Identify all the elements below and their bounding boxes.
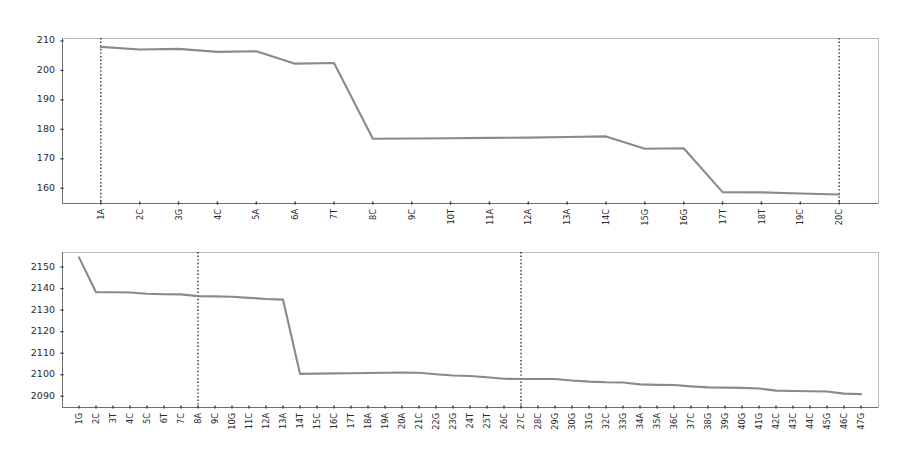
x-tick-label: 2C — [135, 209, 145, 220]
y-tick-label: 190 — [37, 93, 55, 104]
plot-frame — [62, 38, 878, 203]
y-tick-label: 2110 — [31, 347, 55, 358]
x-tick-label: 17T — [346, 412, 356, 428]
x-tick-label: 19C — [795, 209, 805, 225]
x-tick-label: 16G — [679, 209, 689, 226]
x-tick-label: 27C — [516, 413, 526, 429]
x-tick-label: 5A — [251, 209, 261, 220]
x-tick-label: 24T — [465, 412, 475, 428]
series-line[interactable] — [79, 257, 861, 394]
y-tick-label: 2100 — [31, 368, 55, 379]
x-tick-label: 37C — [686, 413, 696, 429]
x-tick-label: 45G — [822, 413, 832, 430]
y-tick-label: 2090 — [31, 390, 55, 401]
x-tick-label: 23G — [448, 413, 458, 430]
x-tick-label: 30G — [567, 413, 577, 430]
x-tick-label: 10G — [227, 413, 237, 430]
x-tick-label: 29G — [550, 413, 560, 430]
x-tick-label: 12A — [523, 209, 533, 225]
y-tick-label: 2150 — [31, 261, 55, 272]
y-axis-ticks: 2090210021102120213021402150 — [31, 261, 64, 401]
x-tick-label: 21C — [414, 413, 424, 429]
x-tick-label: 4C — [125, 413, 135, 424]
y-tick-label: 180 — [37, 123, 55, 134]
x-tick-label: 7C — [176, 413, 186, 424]
x-tick-label: 35A — [652, 413, 662, 429]
x-tick-label: 9C — [407, 209, 417, 220]
x-tick-label: 17T — [718, 208, 728, 224]
x-tick-label: 9C — [210, 413, 220, 424]
x-tick-label: 20C — [834, 209, 844, 225]
x-tick-label: 15C — [312, 413, 322, 429]
x-tick-label: 6T — [159, 412, 169, 423]
x-tick-label: 13A — [562, 209, 572, 225]
y-tick-label: 210 — [37, 34, 55, 45]
x-axis-ticks: 1A2C3G4C5A6A7T8C9C10T11A12A13A14C15G16G1… — [96, 201, 844, 225]
x-tick-label: 15G — [640, 209, 650, 226]
x-tick-label: 39G — [720, 413, 730, 430]
x-tick-label: 11C — [244, 413, 254, 429]
x-tick-label: 22G — [431, 413, 441, 430]
x-tick-label: 47G — [856, 413, 866, 430]
x-tick-label: 32C — [601, 413, 611, 429]
top-chart-svg[interactable]: 1601701801902002101A2C3G4C5A6A7T8C9C10T1… — [0, 0, 914, 231]
top-chart-panel: 1601701801902002101A2C3G4C5A6A7T8C9C10T1… — [0, 0, 914, 231]
x-tick-label: 11A — [485, 209, 495, 225]
y-tick-label: 2130 — [31, 304, 55, 315]
x-tick-label: 3G — [174, 209, 184, 221]
y-tick-label: 160 — [37, 182, 55, 193]
x-tick-label: 31G — [584, 413, 594, 430]
x-tick-label: 14T — [295, 412, 305, 428]
x-tick-label: 14C — [601, 209, 611, 225]
x-tick-label: 10T — [446, 208, 456, 224]
x-tick-label: 40G — [737, 413, 747, 430]
x-tick-label: 43C — [788, 413, 798, 429]
x-tick-label: 26C — [499, 413, 509, 429]
x-tick-label: 33G — [618, 413, 628, 430]
x-tick-label: 46C — [839, 413, 849, 429]
x-tick-label: 36C — [669, 413, 679, 429]
x-tick-label: 16C — [329, 413, 339, 429]
y-tick-label: 200 — [37, 64, 55, 75]
x-axis-ticks: 1G2C3T4C5C6T7C8A9C10G11C12A13A14T15C16C1… — [74, 405, 866, 429]
x-tick-label: 2C — [91, 413, 101, 424]
x-tick-label: 25T — [482, 412, 492, 428]
x-tick-label: 34A — [635, 413, 645, 429]
x-tick-label: 1G — [74, 413, 84, 425]
y-tick-label: 2140 — [31, 282, 55, 293]
x-tick-label: 18A — [363, 413, 373, 429]
x-tick-label: 1A — [96, 209, 106, 220]
series-line[interactable] — [101, 47, 839, 195]
x-tick-label: 7T — [329, 208, 339, 219]
x-tick-label: 28C — [533, 413, 543, 429]
x-tick-label: 41G — [754, 413, 764, 430]
bottom-chart-panel: 20902100211021202130214021501G2C3T4C5C6T… — [0, 232, 914, 463]
x-tick-label: 44C — [805, 413, 815, 429]
x-tick-label: 38G — [703, 413, 713, 430]
bottom-chart-svg[interactable]: 20902100211021202130214021501G2C3T4C5C6T… — [0, 232, 914, 463]
x-tick-label: 4C — [213, 209, 223, 220]
charts-page: 1601701801902002101A2C3G4C5A6A7T8C9C10T1… — [0, 0, 914, 463]
y-tick-label: 170 — [37, 152, 55, 163]
x-tick-label: 19A — [380, 413, 390, 429]
x-tick-label: 13A — [278, 413, 288, 429]
x-tick-label: 6A — [290, 209, 300, 220]
x-tick-label: 3T — [108, 412, 118, 423]
x-tick-label: 8A — [193, 413, 203, 424]
plot-frame — [62, 252, 878, 407]
x-tick-label: 5C — [142, 413, 152, 424]
y-axis-ticks: 160170180190200210 — [37, 34, 64, 192]
x-tick-label: 12A — [261, 413, 271, 429]
x-tick-label: 42C — [771, 413, 781, 429]
x-tick-label: 8C — [368, 209, 378, 220]
y-tick-label: 2120 — [31, 325, 55, 336]
x-tick-label: 18T — [757, 208, 767, 224]
x-tick-label: 20A — [397, 413, 407, 429]
